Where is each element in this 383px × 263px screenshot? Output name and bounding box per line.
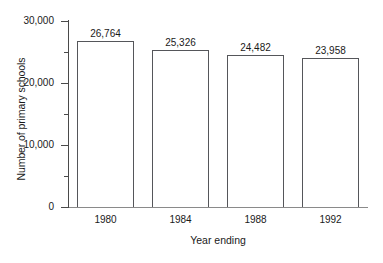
bar: 24,482	[227, 55, 284, 207]
bar-chart-figure: Number of primary schools 010,00020,0003…	[0, 0, 383, 263]
y-axis-major-tick	[61, 207, 69, 208]
x-axis-title: Year ending	[68, 234, 368, 246]
plot-area: 26,764198025,326198424,482198823,9581992	[68, 21, 368, 207]
x-axis-line	[68, 207, 368, 208]
y-axis-major-tick	[61, 21, 69, 22]
bar: 25,326	[152, 50, 209, 207]
y-axis-tick-labels: 010,00020,00030,000	[8, 0, 54, 263]
x-axis-tick-label: 1980	[94, 214, 116, 225]
y-axis-major-tick	[61, 145, 69, 146]
bar-value-label: 23,958	[315, 45, 346, 56]
x-axis-tick-label: 1984	[169, 214, 191, 225]
bar: 26,764	[77, 41, 134, 207]
y-axis-tick-label: 20,000	[8, 78, 54, 88]
y-axis-major-tick	[61, 83, 69, 84]
y-axis-minor-tick	[64, 52, 69, 53]
bar-value-label: 24,482	[240, 42, 271, 53]
x-axis-tick-label: 1988	[244, 214, 266, 225]
bar-value-label: 25,326	[165, 37, 196, 48]
y-axis-tick-label: 30,000	[8, 16, 54, 26]
y-axis-tick-label: 0	[8, 202, 54, 212]
x-axis-tick-label: 1992	[319, 214, 341, 225]
y-axis-minor-tick	[64, 114, 69, 115]
bar-value-label: 26,764	[90, 28, 121, 39]
y-axis-tick-label: 10,000	[8, 140, 54, 150]
bar: 23,958	[302, 58, 359, 207]
y-axis-minor-tick	[64, 176, 69, 177]
